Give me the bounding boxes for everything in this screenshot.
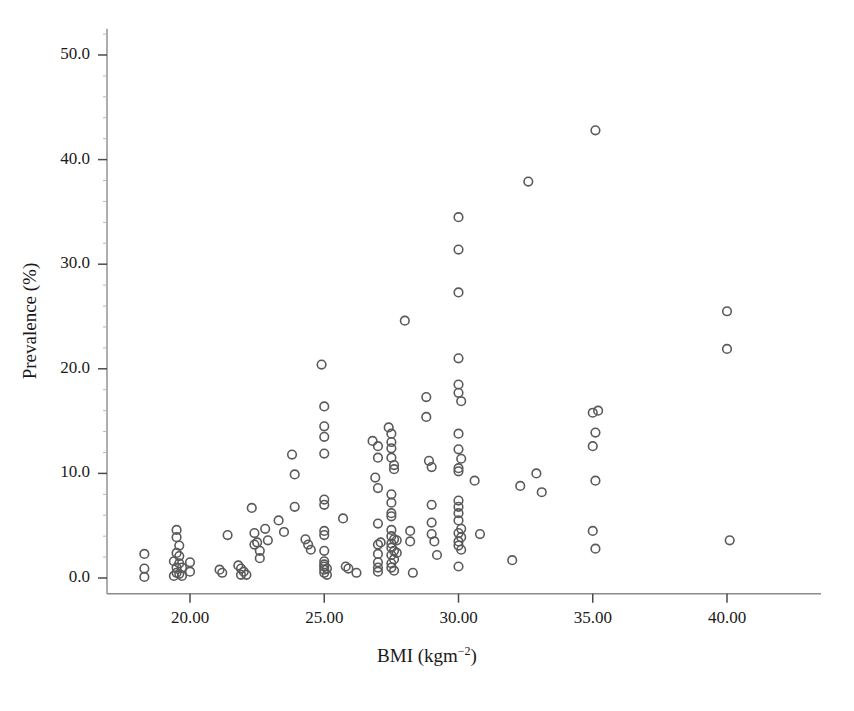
data-point	[591, 126, 600, 135]
data-point	[516, 482, 525, 491]
data-point	[476, 530, 485, 539]
x-axis-title-base: BMI (kgm	[377, 645, 458, 666]
data-point	[140, 573, 149, 582]
data-point	[387, 444, 396, 453]
data-point	[387, 490, 396, 499]
data-point	[320, 432, 329, 441]
data-point	[352, 568, 361, 577]
data-point	[304, 540, 313, 549]
x-axis-title: BMI (kgm−2)	[0, 645, 854, 667]
data-point	[301, 535, 310, 544]
data-point	[274, 516, 283, 525]
data-point	[280, 528, 289, 537]
data-point	[261, 525, 270, 534]
data-point	[387, 498, 396, 507]
data-point	[374, 484, 383, 493]
data-point	[454, 562, 463, 571]
data-point	[341, 562, 350, 571]
data-point	[427, 518, 436, 527]
data-point	[374, 442, 383, 451]
data-point	[368, 437, 377, 446]
data-point	[253, 538, 262, 547]
y-axis-title: Prevalence (%)	[19, 221, 41, 421]
data-point	[140, 564, 149, 573]
data-point	[454, 380, 463, 389]
y-tick-label: 50.0	[20, 44, 90, 64]
data-point	[374, 519, 383, 528]
y-tick-label: 10.0	[20, 462, 90, 482]
data-point	[374, 453, 383, 462]
data-point	[454, 389, 463, 398]
data-point	[591, 428, 600, 437]
data-point	[320, 547, 329, 556]
data-point	[725, 536, 734, 545]
data-point	[470, 476, 479, 485]
data-point	[457, 454, 466, 463]
data-point	[376, 538, 385, 547]
x-axis-title-tail: )	[471, 645, 477, 666]
x-tick-label: 20.00	[150, 608, 230, 628]
y-tick-label: 20.0	[20, 358, 90, 378]
data-point	[532, 469, 541, 478]
data-point	[317, 360, 326, 369]
data-point	[433, 551, 442, 560]
data-point	[290, 503, 299, 512]
data-point	[454, 445, 463, 454]
data-point	[320, 449, 329, 458]
data-point	[591, 476, 600, 485]
data-point	[454, 213, 463, 222]
data-point	[374, 550, 383, 559]
data-point	[290, 470, 299, 479]
data-point	[401, 316, 410, 325]
data-point	[371, 473, 380, 482]
data-point	[454, 288, 463, 297]
data-point	[588, 408, 597, 417]
data-point	[250, 529, 259, 538]
data-point	[588, 442, 597, 451]
data-point	[344, 564, 353, 573]
y-tick-label: 30.0	[20, 253, 90, 273]
data-point	[186, 558, 195, 567]
x-tick-label: 25.00	[284, 608, 364, 628]
data-point	[591, 544, 600, 553]
y-tick-label: 0.0	[20, 567, 90, 587]
data-point	[723, 307, 732, 316]
data-point	[320, 402, 329, 411]
data-point	[307, 545, 316, 554]
data-point	[594, 406, 603, 415]
data-point	[454, 245, 463, 254]
data-points-layer	[140, 126, 734, 581]
data-point	[323, 571, 332, 580]
data-point	[406, 527, 415, 536]
data-point	[454, 429, 463, 438]
x-tick-label: 40.00	[687, 608, 767, 628]
x-axis-title-exponent: −2	[458, 644, 471, 658]
data-point	[524, 177, 533, 186]
data-point	[454, 354, 463, 363]
data-point	[320, 422, 329, 431]
data-point	[409, 568, 418, 577]
data-point	[723, 345, 732, 354]
data-point	[223, 531, 232, 540]
data-point	[508, 556, 517, 565]
data-point	[339, 514, 348, 523]
data-point	[422, 393, 431, 402]
data-point	[140, 550, 149, 559]
data-point	[406, 537, 415, 546]
data-point	[422, 413, 431, 422]
data-point	[457, 397, 466, 406]
data-point	[588, 527, 597, 536]
x-tick-label: 30.00	[419, 608, 499, 628]
scatter-plot-figure: Prevalence (%) BMI (kgm−2) 0.010.020.030…	[0, 0, 854, 711]
data-point	[374, 540, 383, 549]
data-point	[537, 488, 546, 497]
data-point	[247, 504, 256, 513]
data-point	[427, 500, 436, 509]
data-point	[288, 450, 297, 459]
x-tick-label: 35.00	[553, 608, 633, 628]
data-point	[320, 500, 329, 509]
y-tick-label: 40.0	[20, 149, 90, 169]
plot-canvas	[0, 0, 854, 711]
data-point	[264, 536, 273, 545]
data-point	[186, 567, 195, 576]
